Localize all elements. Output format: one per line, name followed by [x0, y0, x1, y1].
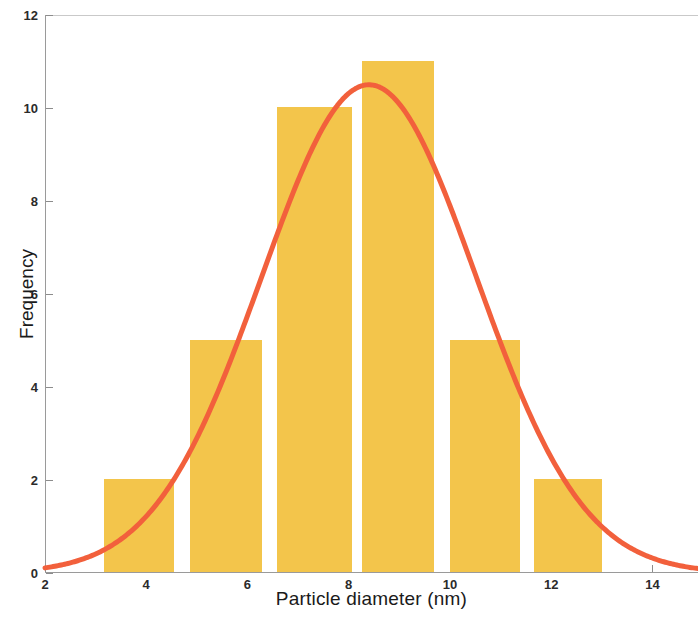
y-axis-title: Frequency — [16, 249, 38, 339]
y-tick-label: 12 — [24, 8, 38, 23]
plot-area: 024681012 2468101214 Frequency — [45, 15, 698, 573]
y-tick-label: 2 — [31, 473, 38, 488]
y-tick-label: 0 — [31, 566, 38, 581]
histogram-figure: 024681012 2468101214 Frequency Particle … — [0, 0, 698, 618]
y-tick-mark — [46, 573, 53, 574]
y-tick-label: 4 — [31, 380, 38, 395]
gaussian-fit-path — [45, 85, 698, 569]
gaussian-fit-curve — [45, 15, 698, 573]
y-tick-label: 10 — [24, 101, 38, 116]
x-axis-title: Particle diameter (nm) — [45, 588, 698, 610]
y-tick-label: 8 — [31, 194, 38, 209]
